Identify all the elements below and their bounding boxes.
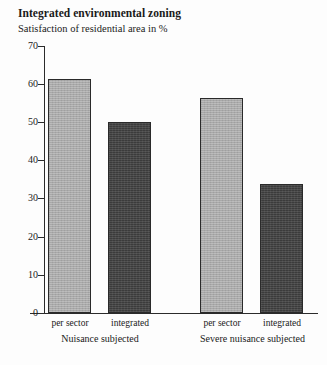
y-tick-label-40: 40 bbox=[12, 155, 38, 165]
category-label-4: integrated bbox=[252, 318, 312, 329]
group-label-severe-nuisance: Severe nuisance subjected bbox=[185, 333, 320, 345]
bar-group2-per-sector bbox=[200, 98, 243, 313]
y-tick-30 bbox=[38, 198, 44, 199]
y-tick-20 bbox=[38, 237, 44, 238]
y-tick-50 bbox=[38, 122, 44, 123]
bar-group1-integrated bbox=[108, 122, 151, 313]
y-tick-10 bbox=[38, 275, 44, 276]
chart-page: Integrated environmental zoning Satisfac… bbox=[0, 0, 327, 365]
y-tick-60 bbox=[38, 84, 44, 85]
bar-group1-per-sector bbox=[48, 79, 91, 313]
y-tick-label-30: 30 bbox=[12, 193, 38, 203]
y-tick-label-60: 60 bbox=[12, 79, 38, 89]
plot-area: 70 60 50 40 30 20 10 0 per sector integr… bbox=[0, 0, 327, 365]
y-tick-label-0: 0 bbox=[12, 308, 38, 318]
y-tick-70 bbox=[38, 46, 44, 47]
y-tick-40 bbox=[38, 160, 44, 161]
category-label-1: per sector bbox=[40, 318, 100, 329]
category-label-2: integrated bbox=[100, 318, 160, 329]
y-tick-label-20: 20 bbox=[12, 232, 38, 242]
y-tick-label-10: 10 bbox=[12, 270, 38, 280]
bar-group2-integrated bbox=[260, 184, 303, 313]
category-label-3: per sector bbox=[192, 318, 252, 329]
group-label-nuisance: Nuisance subjected bbox=[40, 333, 160, 345]
y-axis-line bbox=[44, 46, 45, 314]
y-tick-label-70: 70 bbox=[12, 41, 38, 51]
y-tick-label-50: 50 bbox=[12, 117, 38, 127]
x-axis-line bbox=[30, 313, 318, 314]
y-tick-0 bbox=[38, 313, 44, 314]
